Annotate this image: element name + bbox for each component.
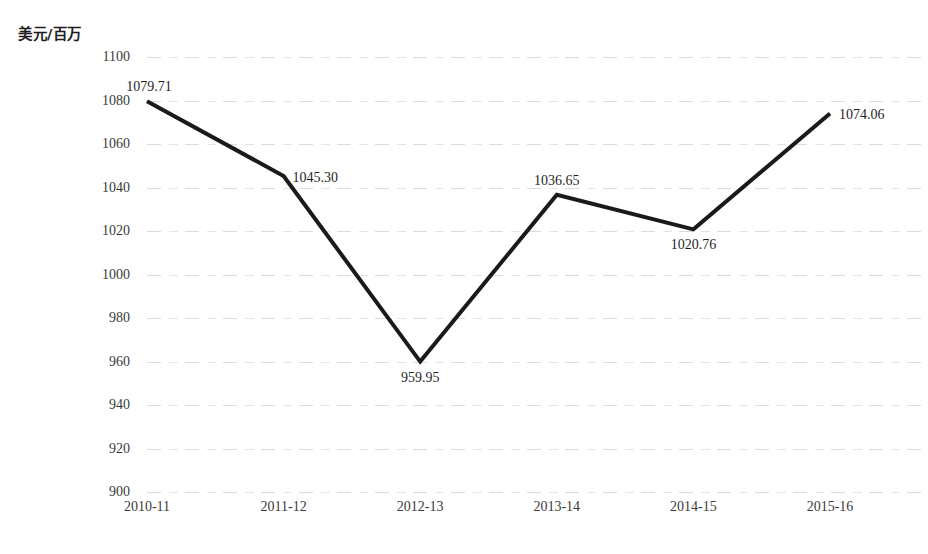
x-axis-tick-label: 2011-12	[261, 500, 307, 514]
data-point-label: 1079.71	[126, 80, 172, 94]
x-axis-tick-label: 2014-15	[670, 500, 717, 514]
x-axis-tick-label: 2010-11	[124, 500, 170, 514]
data-point-label: 1020.76	[671, 238, 717, 252]
data-point-label: 1074.06	[839, 108, 885, 122]
data-point-label: 1045.30	[293, 171, 339, 185]
data-point-label: 959.95	[401, 371, 440, 385]
series-line	[147, 101, 830, 361]
x-axis-tick-label: 2015-16	[807, 500, 854, 514]
data-point-label: 1036.65	[534, 174, 580, 188]
x-axis-tick-label: 2012-13	[397, 500, 444, 514]
x-axis-tick-label: 2013-14	[533, 500, 580, 514]
x-axis-tick-labels: 2010-112011-122012-132013-142014-152015-…	[0, 500, 928, 522]
line-chart: 美元/百万 1100108010601040102010009809609409…	[0, 0, 928, 554]
